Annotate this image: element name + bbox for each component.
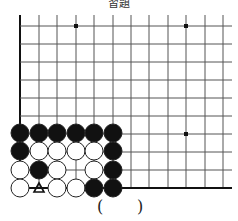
white-stone[interactable] — [48, 142, 66, 160]
star-point — [184, 132, 188, 136]
white-stone[interactable] — [85, 142, 103, 160]
star-point — [74, 24, 78, 28]
black-stone[interactable] — [104, 124, 122, 142]
close-paren: ) — [137, 197, 143, 216]
star-point — [184, 24, 188, 28]
white-stone[interactable] — [11, 179, 29, 197]
white-stone[interactable] — [30, 142, 48, 160]
black-stone[interactable] — [30, 124, 48, 142]
white-stone[interactable] — [48, 161, 66, 179]
white-stone[interactable] — [67, 179, 85, 197]
open-paren: ( — [97, 197, 103, 216]
white-stone[interactable] — [67, 142, 85, 160]
white-stone[interactable] — [11, 161, 29, 179]
black-stone[interactable] — [104, 142, 122, 160]
white-stone[interactable] — [85, 161, 103, 179]
black-stone[interactable] — [30, 161, 48, 179]
go-board[interactable] — [0, 0, 238, 221]
black-stone[interactable] — [85, 179, 103, 197]
black-stone[interactable] — [85, 124, 103, 142]
black-stone[interactable] — [48, 124, 66, 142]
white-stone[interactable] — [48, 179, 66, 197]
black-stone[interactable] — [67, 124, 85, 142]
black-stone[interactable] — [11, 142, 29, 160]
black-stone[interactable] — [104, 179, 122, 197]
black-stone[interactable] — [104, 161, 122, 179]
black-stone[interactable] — [11, 124, 29, 142]
